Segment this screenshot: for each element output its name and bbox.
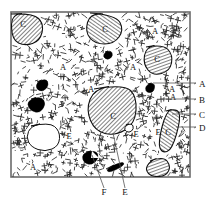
in-figure-label-a-4: A bbox=[60, 62, 67, 72]
in-figure-label-c-3: C bbox=[154, 54, 160, 64]
in-figure-label-a-14: A bbox=[30, 162, 37, 172]
callout-label-a: A bbox=[199, 79, 206, 89]
vesicle-small bbox=[125, 124, 134, 132]
figure-container: CCACAAAAACEEECA ABCDFE bbox=[0, 0, 213, 203]
in-figure-label-c-1: C bbox=[102, 24, 108, 34]
in-figure-label-a-8: A bbox=[170, 92, 177, 102]
petrographic-sketch-svg: CCACAAAAACEEECA ABCDFE bbox=[0, 0, 213, 203]
in-figure-label-e-12: E bbox=[155, 127, 160, 137]
in-figure-label-c-13: C bbox=[165, 127, 171, 137]
callout-label-e: E bbox=[122, 187, 128, 197]
callout-label-d: D bbox=[199, 123, 206, 133]
in-figure-label-a-6: A bbox=[88, 84, 95, 94]
callout-label-b: B bbox=[199, 95, 205, 105]
callout-label-f: F bbox=[101, 187, 106, 197]
in-figure-label-e-11: E bbox=[133, 129, 138, 139]
in-figure-label-a-5: A bbox=[130, 62, 137, 72]
in-figure-label-c-0: C bbox=[20, 19, 26, 29]
in-figure-label-a-2: A bbox=[152, 26, 159, 36]
clast-top-left bbox=[11, 14, 43, 45]
in-figure-label-e-10: E bbox=[66, 131, 71, 141]
vesicle-outlined bbox=[27, 124, 59, 151]
callout-label-c: C bbox=[199, 110, 205, 120]
in-figure-label-c-9: C bbox=[110, 111, 116, 121]
